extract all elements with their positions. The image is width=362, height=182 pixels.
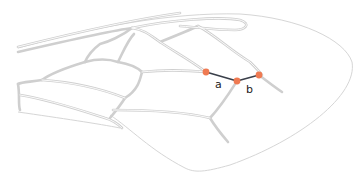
segment-a-label: a: [215, 79, 222, 90]
wing-veins: [18, 13, 282, 142]
wing-diagram: [0, 0, 362, 182]
wing-outer-margin: [18, 14, 352, 171]
landmark-point-3: [256, 72, 263, 79]
landmark-point-2: [234, 78, 241, 85]
segment-b-line: [237, 75, 259, 81]
wing-hind-margin: [18, 112, 120, 128]
segment-b-label: b: [246, 84, 253, 95]
landmark-point-1: [203, 69, 210, 76]
